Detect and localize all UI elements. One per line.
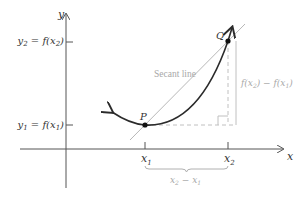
point-p — [142, 122, 147, 127]
point-q-label: Q — [216, 30, 224, 41]
rise-label: f(x2) − f(x1) — [240, 78, 293, 89]
x2-label: x2 — [224, 152, 235, 167]
y1-label: y1 = f(x1) — [17, 119, 65, 132]
secant-diagram: y x y2 = f(x2) y1 = f(x1) x1 x2 P Q Seca… — [0, 0, 307, 197]
secant-line-label: Secant line — [154, 69, 196, 79]
x1-label: x1 — [141, 152, 152, 167]
y2-label: y2 = f(x2) — [17, 35, 65, 48]
run-label: x2 − x1 — [170, 175, 201, 186]
y-axis-label: y — [57, 8, 65, 21]
point-q — [225, 38, 230, 43]
point-p-label: P — [139, 111, 147, 122]
right-angle-marker — [218, 116, 228, 125]
x-axis-label: x — [287, 150, 294, 163]
run-brace — [145, 166, 228, 172]
